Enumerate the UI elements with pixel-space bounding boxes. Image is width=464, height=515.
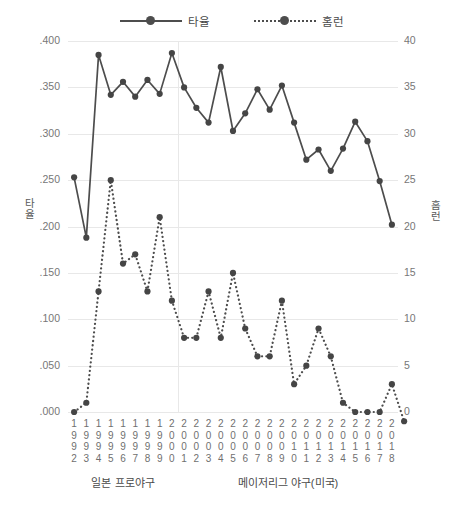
data-point-marker [377, 178, 383, 184]
data-point-marker [303, 363, 309, 369]
data-point-marker [291, 381, 297, 387]
data-point-marker [303, 157, 309, 163]
data-point-marker [169, 50, 175, 56]
data-point-marker [218, 335, 224, 341]
data-point-marker [169, 298, 175, 304]
y-axis-right-tick-label: 30 [404, 127, 444, 139]
x-axis-tick-label: 2002 [190, 418, 202, 464]
data-point-marker [254, 353, 260, 359]
data-point-marker [95, 52, 101, 58]
data-point-marker [132, 94, 138, 100]
y-axis-right-tick-label: 40 [404, 34, 444, 46]
x-axis-tick-label: 2011 [300, 418, 312, 464]
y-axis-left-tick-label: .100 [14, 312, 60, 324]
data-point-marker [108, 177, 114, 183]
x-axis-tick-label: 2004 [215, 418, 227, 464]
series-lines [68, 41, 398, 412]
y-axis-left-tick-label: .250 [14, 173, 60, 185]
data-point-marker [71, 174, 77, 180]
x-axis-tick-label: 1997 [129, 418, 141, 464]
x-axis-tick-label: 1993 [80, 418, 92, 464]
data-point-marker [377, 409, 383, 415]
data-point-marker [157, 91, 163, 97]
x-axis-tick-label: 2005 [227, 418, 239, 464]
data-point-marker [279, 82, 285, 88]
series-line-home-runs [74, 180, 404, 421]
data-point-marker [242, 325, 248, 331]
data-point-marker [108, 92, 114, 98]
data-point-marker [181, 335, 187, 341]
data-point-marker [352, 119, 358, 125]
y-axis-left-tick-label: .150 [14, 266, 60, 278]
data-point-marker [83, 400, 89, 406]
y-axis-left-tick-label: .300 [14, 127, 60, 139]
y-axis-right-tick-label: 15 [404, 266, 444, 278]
x-axis-tick-label: 1998 [141, 418, 153, 464]
x-axis-tick-label: 2003 [203, 418, 215, 464]
legend-label-home-runs: 홈런 [322, 13, 344, 29]
legend-label-batting-average: 타율 [188, 13, 210, 29]
y-axis-right-tick-label: 10 [404, 312, 444, 324]
data-point-marker [218, 64, 224, 70]
data-point-marker [230, 128, 236, 134]
y-axis-left-title: 타율 [22, 198, 37, 220]
data-point-marker [95, 288, 101, 294]
x-axis-tick-label: 2013 [325, 418, 337, 464]
data-point-marker [205, 120, 211, 126]
data-point-marker [181, 84, 187, 90]
x-axis-tick-label: 1994 [93, 418, 105, 464]
data-point-marker [267, 107, 273, 113]
x-axis-ticks: 1992199319941995199619971998199920002001… [68, 418, 398, 470]
solid-line-marker-icon [120, 15, 182, 27]
x-axis-tick-label: 2016 [361, 418, 373, 464]
data-point-marker [132, 251, 138, 257]
y-axis-left-tick-label: .050 [14, 359, 60, 371]
data-point-marker [328, 168, 334, 174]
data-point-marker [230, 270, 236, 276]
data-point-marker [389, 222, 395, 228]
data-point-marker [364, 138, 370, 144]
data-point-marker [193, 105, 199, 111]
data-point-marker [352, 409, 358, 415]
y-axis-right-tick-label: 25 [404, 173, 444, 185]
data-point-marker [340, 400, 346, 406]
data-point-marker [315, 325, 321, 331]
x-axis-group-label: 메이저리그 야구(미국) [238, 474, 338, 490]
data-point-marker [193, 335, 199, 341]
x-axis-tick-label: 2012 [313, 418, 325, 464]
x-axis-tick-label: 2010 [288, 418, 300, 464]
data-point-marker [267, 353, 273, 359]
x-axis-tick-label: 2007 [251, 418, 263, 464]
x-axis-group-label: 일본 프로야구 [91, 474, 154, 490]
data-point-marker [242, 110, 248, 116]
data-point-marker [157, 214, 163, 220]
x-axis-tick-label: 2006 [239, 418, 251, 464]
data-point-marker [144, 288, 150, 294]
legend-item-home-runs: 홈런 [254, 13, 344, 29]
x-axis-tick-label: 2018 [386, 418, 398, 464]
x-axis-tick-label: 2014 [337, 418, 349, 464]
data-point-marker [401, 418, 407, 424]
data-point-marker [291, 120, 297, 126]
x-axis-group-labels: 일본 프로야구메이저리그 야구(미국) [0, 474, 464, 498]
dotted-line-marker-icon [254, 15, 316, 27]
y-axis-right-tick-label: 35 [404, 80, 444, 92]
data-point-marker [205, 288, 211, 294]
data-point-marker [83, 235, 89, 241]
data-point-marker [364, 409, 370, 415]
y-axis-right-tick-label: 0 [404, 405, 444, 417]
gridline [68, 412, 398, 413]
x-axis-tick-label: 1999 [154, 418, 166, 464]
x-axis-tick-label: 2001 [178, 418, 190, 464]
x-axis-tick-label: 2015 [349, 418, 361, 464]
legend-item-batting-average: 타율 [120, 13, 210, 29]
data-point-marker [389, 381, 395, 387]
data-point-marker [120, 261, 126, 267]
y-axis-right-tick-label: 20 [404, 220, 444, 232]
chart-container: 타율 홈런 타율 홈런 .400.350.300.250.200.150.100… [0, 0, 464, 515]
x-axis-tick-label: 2008 [264, 418, 276, 464]
data-point-marker [254, 86, 260, 92]
data-point-marker [315, 146, 321, 152]
x-axis-tick-label: 1996 [117, 418, 129, 464]
plot-area [68, 41, 398, 412]
